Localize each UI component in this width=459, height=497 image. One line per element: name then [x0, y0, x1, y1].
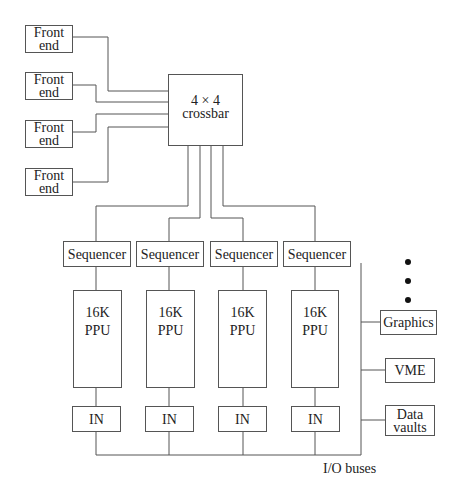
in-label: IN — [235, 413, 250, 426]
fe1-link — [73, 37, 168, 91]
ellipsis-dot-icon — [405, 297, 411, 303]
ppu-box-2: 16K PPU — [146, 290, 195, 388]
fe3-link — [73, 114, 168, 132]
ppu-size-label: 16K — [85, 304, 109, 322]
in-label: IN — [89, 413, 104, 426]
vme-box: VME — [385, 358, 435, 383]
io-buses-label: I/O buses — [323, 461, 376, 477]
in-box-4: IN — [291, 406, 340, 432]
xbar-seq2-link — [169, 145, 200, 241]
ppu-size-label: 16K — [158, 304, 182, 322]
in-box-2: IN — [145, 406, 194, 432]
sequencer-box-3: Sequencer — [210, 241, 278, 267]
front-end-label-line2: end — [39, 86, 59, 99]
front-end-box-4: Front end — [25, 168, 73, 196]
sequencer-label: Sequencer — [141, 248, 199, 261]
in-label: IN — [308, 413, 323, 426]
graphics-box: Graphics — [380, 310, 437, 335]
crossbar-box: 4 × 4 crossbar — [168, 74, 243, 146]
vme-label: VME — [394, 364, 425, 377]
ellipsis-dot-icon — [405, 259, 411, 265]
ppu-label: PPU — [158, 322, 184, 340]
ppu-label: PPU — [302, 322, 328, 340]
sequencer-label: Sequencer — [215, 248, 273, 261]
ppu-size-label: 16K — [303, 304, 327, 322]
graphics-label: Graphics — [383, 316, 434, 329]
sequencer-label: Sequencer — [288, 248, 346, 261]
ppu-box-1: 16K PPU — [73, 290, 122, 388]
ppu-size-label: 16K — [230, 304, 254, 322]
crossbar-label: crossbar — [182, 107, 229, 120]
front-end-label-line2: end — [39, 39, 59, 52]
data-vaults-label-line2: vaults — [393, 421, 426, 434]
sequencer-box-2: Sequencer — [136, 241, 204, 267]
xbar-seq3-link — [211, 145, 243, 241]
ppu-box-4: 16K PPU — [291, 290, 339, 388]
front-end-box-1: Front end — [25, 25, 73, 53]
in-box-3: IN — [218, 406, 267, 432]
sequencer-box-1: Sequencer — [63, 241, 131, 267]
in-box-1: IN — [72, 406, 121, 432]
xbar-seq1-link — [96, 145, 188, 241]
ppu-box-3: 16K PPU — [218, 290, 267, 388]
in-label: IN — [162, 413, 177, 426]
fe4-link — [73, 127, 168, 182]
fe2-link — [73, 85, 168, 102]
ppu-label: PPU — [230, 322, 256, 340]
xbar-seq4-link — [223, 145, 315, 241]
data-vaults-label-line1: Data — [397, 408, 423, 421]
front-end-label-line2: end — [39, 182, 59, 195]
ellipsis-dot-icon — [405, 278, 411, 284]
front-end-box-2: Front end — [25, 72, 73, 100]
data-vaults-box: Data vaults — [385, 405, 435, 436]
sequencer-label: Sequencer — [68, 248, 126, 261]
sequencer-box-4: Sequencer — [283, 241, 351, 267]
ppu-label: PPU — [85, 322, 111, 340]
front-end-box-3: Front end — [25, 120, 73, 148]
front-end-label-line2: end — [39, 134, 59, 147]
